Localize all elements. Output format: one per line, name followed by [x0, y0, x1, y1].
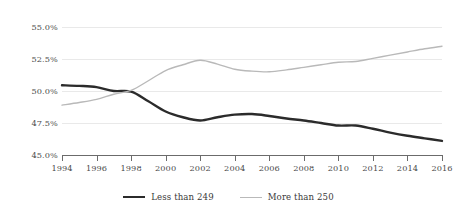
- series-line: [62, 46, 442, 105]
- legend-label-less-than-249: Less than 249: [151, 192, 213, 202]
- chart-legend: Less than 249 More than 250: [0, 192, 457, 202]
- series-lines: [0, 0, 457, 215]
- legend-label-more-than-250: More than 250: [268, 192, 334, 202]
- legend-item-less-than-249: Less than 249: [123, 192, 213, 202]
- legend-item-more-than-250: More than 250: [240, 192, 334, 202]
- legend-swatch-light-icon: [240, 197, 262, 198]
- line-chart: 55.0%52.5%50.0%47.5%45.0% 19941996199820…: [0, 0, 457, 215]
- legend-swatch-dark-icon: [123, 196, 145, 198]
